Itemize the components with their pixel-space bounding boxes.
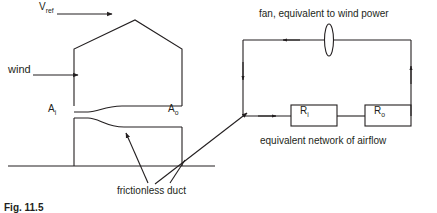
analogy-arrow [155, 113, 247, 184]
figure-airflow-network-analogy: Vref wind Ai Ao frictionless duct fan, e… [0, 0, 437, 213]
duct-lower-wall [74, 118, 182, 127]
wind-label: wind [8, 64, 31, 75]
frictionless-duct-label: frictionless duct [117, 186, 186, 196]
diagram-canvas [0, 0, 437, 213]
outlet-area-label: Ao [168, 104, 178, 117]
resistor-inlet-body [291, 105, 337, 126]
house-outline [74, 20, 182, 106]
resistor-outlet-label: Ro [374, 106, 385, 119]
inlet-area-label: Ai [48, 104, 56, 117]
resistor-outlet-body [365, 105, 411, 126]
duct-upper-wall [74, 106, 182, 112]
figure-caption: Fig. 11.5 [4, 203, 43, 213]
fan-label: fan, equivalent to wind power [259, 9, 389, 19]
vref-label: Vref [39, 2, 54, 15]
duct-leader-left [126, 133, 148, 183]
fan-icon [325, 24, 334, 56]
resistor-inlet-label: Ri [300, 106, 309, 119]
duct-leader-right [170, 160, 185, 183]
network-caption: equivalent network of airflow [260, 136, 386, 146]
